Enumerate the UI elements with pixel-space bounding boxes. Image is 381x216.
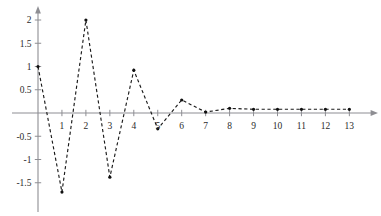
data-point-x11 [300,108,303,111]
x-axis [12,110,378,116]
data-point-x1 [60,190,63,193]
x-tick-label-3: 3 [107,121,112,131]
y-tick-label-0.5: 0.5 [20,85,32,95]
series-marker-group [36,18,351,193]
data-point-x3 [108,176,111,179]
data-point-x9 [252,108,255,111]
y-axis-arrowhead [35,6,41,13]
y-tick-label--1: -1 [24,155,32,165]
data-point-x12 [324,108,327,111]
data-point-x0 [36,65,39,68]
y-tick-label--0.5: -0.5 [16,132,31,142]
y-tick-label-group: -1.5-1-0.50.511.52 [16,15,31,188]
data-point-x4 [132,69,135,72]
x-tick-label-6: 6 [179,121,184,131]
x-tick-label-8: 8 [227,121,232,131]
x-tick-label-group: 12345678910111213 [60,121,355,131]
y-tick-label-1.5: 1.5 [20,39,32,49]
data-point-x10 [276,108,279,111]
series-line-damped-oscillation [38,20,349,192]
y-tick-label--1.5: -1.5 [16,178,31,188]
x-tick-label-9: 9 [251,121,256,131]
data-point-x2 [84,18,87,21]
data-point-x7 [204,110,207,113]
y-tick-label-1: 1 [27,62,32,72]
data-point-x6 [180,98,183,101]
x-tick-label-13: 13 [345,121,355,131]
x-axis-arrowhead [371,110,378,116]
x-tick-label-4: 4 [131,121,136,131]
y-axis [35,6,41,212]
x-tick-label-11: 11 [297,121,306,131]
x-tick-label-5: 5 [155,121,160,131]
y-tick-label-2: 2 [27,15,32,25]
x-tick-label-1: 1 [60,121,65,131]
x-tick-label-10: 10 [273,121,283,131]
data-point-x13 [348,108,351,111]
damped-oscillation-plot: 12345678910111213 -1.5-1-0.50.511.52 [0,0,381,216]
data-point-x8 [228,107,231,110]
chart-container: 12345678910111213 -1.5-1-0.50.511.52 [0,0,381,216]
x-tick-label-12: 12 [321,121,331,131]
x-tick-label-2: 2 [84,121,89,131]
x-tick-label-7: 7 [203,121,208,131]
